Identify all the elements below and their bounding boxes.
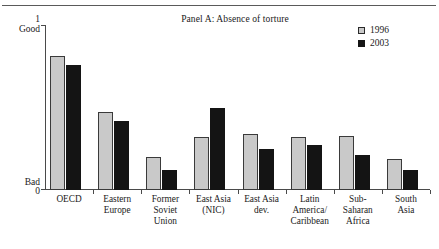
x-axis-label-line: Former	[138, 194, 192, 205]
bar-2003	[259, 149, 274, 190]
bar-2003	[114, 121, 129, 190]
x-axis-label-line: Asia	[379, 205, 433, 216]
x-axis-label-line: Saharan	[331, 205, 385, 216]
x-axis-label-line: Union	[138, 216, 192, 227]
top-horizontal-rule	[2, 5, 436, 6]
x-axis-label: LatinAmerica/Caribbean	[283, 194, 337, 228]
x-axis-label-line: OECD	[42, 194, 96, 205]
bar-1996	[98, 112, 113, 190]
x-axis-label-line: Africa	[331, 216, 385, 227]
bar-1996	[291, 137, 306, 190]
bar-2003	[355, 155, 370, 190]
bar-2003	[307, 145, 322, 190]
x-axis-label-line: (NIC)	[186, 205, 240, 216]
bar-1996	[194, 137, 209, 190]
x-axis-label-line: Soviet	[138, 205, 192, 216]
y-axis-value-max: 1	[19, 15, 40, 24]
bar-2003	[162, 170, 177, 190]
x-axis-labels-layer: OECDEasternEuropeFormerSovietUnionEast A…	[0, 25, 439, 105]
x-axis-label-line: East Asia	[235, 194, 289, 205]
x-axis-label: SouthAsia	[379, 194, 433, 216]
y-axis-value-min: 0	[25, 187, 40, 196]
bar-2003	[210, 108, 225, 191]
x-axis-label: OECD	[42, 194, 96, 205]
chart-title: Panel A: Absence of torture	[120, 14, 350, 24]
x-axis-label-line: Sub-	[331, 194, 385, 205]
x-axis-label-line: Europe	[90, 205, 144, 216]
bar-2003	[403, 170, 418, 190]
x-axis-label: FormerSovietUnion	[138, 194, 192, 228]
x-axis-label-line: Caribbean	[283, 216, 337, 227]
x-axis-label: EasternEurope	[90, 194, 144, 216]
x-axis-label-line: Latin	[283, 194, 337, 205]
bar-1996	[243, 134, 258, 190]
x-axis-label-line: America/	[283, 205, 337, 216]
figure-panel-a: Panel A: Absence of torture 1996 2003 1 …	[0, 0, 439, 249]
x-axis-label-line: South	[379, 194, 433, 205]
y-axis-label-bottom: Bad 0	[25, 177, 40, 196]
bar-1996	[146, 157, 161, 190]
x-axis-label: East Asiadev.	[235, 194, 289, 216]
x-axis-label-line: dev.	[235, 205, 289, 216]
bar-1996	[339, 136, 354, 190]
x-axis-label: Sub-SaharanAfrica	[331, 194, 385, 228]
x-axis-label-line: East Asia	[186, 194, 240, 205]
x-axis-label-line: Eastern	[90, 194, 144, 205]
bar-1996	[387, 159, 402, 190]
x-axis-label: East Asia(NIC)	[186, 194, 240, 216]
